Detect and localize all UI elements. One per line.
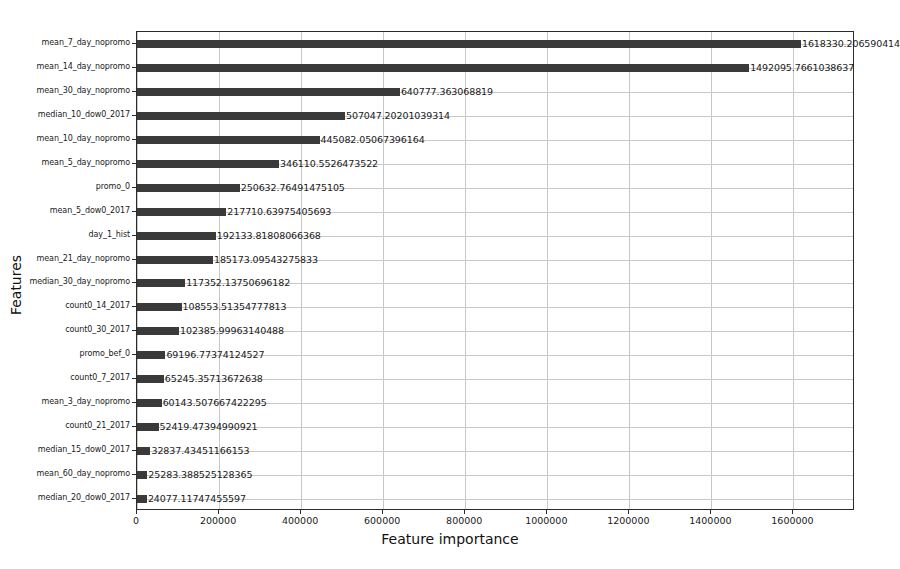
gridline-vertical [793,32,794,509]
bar[interactable] [137,256,213,264]
bar[interactable] [137,495,147,503]
gridline-vertical [301,32,302,509]
y-axis-title: Features [2,0,30,569]
y-axis-tick-label: count0_21_2017 [65,421,130,431]
y-axis-tick-label: mean_7_day_nopromo [42,38,130,48]
x-axis-tick-label: 0 [133,515,139,527]
bar-value-label: 25283.388525128365 [148,467,252,483]
bar[interactable] [137,64,749,72]
x-axis-tick-mark [710,510,711,514]
bar[interactable] [137,184,240,192]
x-axis-tick-label: 200000 [200,515,236,527]
x-axis-tick-mark [218,510,219,514]
bar[interactable] [137,136,320,144]
bar[interactable] [137,423,159,431]
bar[interactable] [137,208,226,216]
y-axis-tick-label: mean_21_day_nopromo [37,254,130,264]
bar-value-label: 117352.13750696182 [186,275,290,291]
gridline-vertical [219,32,220,509]
x-axis-tick-label: 400000 [282,515,318,527]
y-axis-tick-mark [132,306,136,307]
y-axis-tick-label: mean_5_day_nopromo [42,158,130,168]
bar[interactable] [137,88,400,96]
y-axis-tick-label: mean_14_day_nopromo [37,62,130,72]
bar[interactable] [137,279,185,287]
x-axis-tick-mark [546,510,547,514]
bar[interactable] [137,375,164,383]
bar[interactable] [137,232,216,240]
x-axis-tick-label: 1600000 [771,515,813,527]
x-axis-tick-mark [136,510,137,514]
y-axis-tick-mark [132,402,136,403]
feature-importance-figure: 1618330.2065904141492095.766103863764077… [0,0,900,569]
bar-value-label: 60143.507667422295 [163,395,267,411]
bar[interactable] [137,327,179,335]
gridline-vertical [629,32,630,509]
x-axis-tick-mark [628,510,629,514]
bar-value-label: 102385.99963140488 [180,323,284,339]
y-axis-tick-mark [132,450,136,451]
y-axis-tick-mark [132,91,136,92]
y-axis-tick-label: mean_60_day_nopromo [37,469,130,479]
bar-value-label: 507047.20201039314 [346,108,450,124]
x-axis-tick-mark [464,510,465,514]
y-axis-tick-label: promo_bef_0 [79,349,130,359]
x-axis-tick-label: 1200000 [607,515,649,527]
y-axis-tick-label: promo_0 [96,182,130,192]
y-axis-tick-label: count0_14_2017 [65,301,130,311]
bar-value-label: 217710.63975405693 [227,204,331,220]
y-axis-tick-label: median_15_dow0_2017 [38,445,130,455]
y-axis-tick-label: median_30_day_nopromo [29,277,130,287]
x-axis-tick-mark [792,510,793,514]
bar-value-label: 65245.35713672638 [165,371,263,387]
y-axis-tick-mark [132,187,136,188]
y-axis-tick-mark [132,282,136,283]
bar-value-label: 640777.363068819 [401,84,493,100]
bar[interactable] [137,447,150,455]
y-axis-tick-label: count0_7_2017 [70,373,130,383]
bar[interactable] [137,303,182,311]
x-axis-tick-label: 1000000 [525,515,567,527]
y-axis-tick-mark [132,259,136,260]
x-axis-tick-mark [300,510,301,514]
bar-value-label: 192133.81808066368 [217,228,321,244]
y-axis-tick-mark [132,139,136,140]
bar[interactable] [137,40,801,48]
x-axis-tick-label: 1400000 [689,515,731,527]
bar-value-label: 52419.47394990921 [160,419,258,435]
y-axis-tick-label: median_20_dow0_2017 [38,493,130,503]
y-axis-tick-label: day_1_hist [89,230,130,240]
bar-value-label: 1492095.7661038637 [750,60,854,76]
x-axis-tick-label: 800000 [446,515,482,527]
bar[interactable] [137,471,147,479]
gridline-vertical [465,32,466,509]
y-axis-tick-mark [132,115,136,116]
bar[interactable] [137,399,162,407]
y-axis-tick-label: mean_5_dow0_2017 [50,206,130,216]
bar-value-label: 445082.05067396164 [321,132,425,148]
bar-value-label: 346110.5526473522 [280,156,378,172]
y-axis-tick-mark [132,43,136,44]
bar[interactable] [137,112,345,120]
y-axis-tick-mark [132,426,136,427]
bar-value-label: 185173.09543275833 [214,252,318,268]
gridline-vertical [137,32,138,509]
bar-value-label: 24077.11747455597 [148,491,246,507]
y-axis-tick-label: mean_30_day_nopromo [37,86,130,96]
y-axis-tick-mark [132,330,136,331]
y-axis-tick-mark [132,474,136,475]
y-axis-tick-label: median_10_dow0_2017 [38,110,130,120]
bar-value-label: 108553.51354777813 [183,299,287,315]
x-axis-tick-label: 600000 [364,515,400,527]
gridline-vertical [547,32,548,509]
bar-value-label: 32837.43451166153 [151,443,249,459]
y-axis-tick-mark [132,67,136,68]
y-axis-tick-label: mean_3_day_nopromo [42,397,130,407]
plot-area: 1618330.2065904141492095.766103863764077… [136,31,854,510]
bar[interactable] [137,351,165,359]
bar-value-label: 69196.77374124527 [166,347,264,363]
bar[interactable] [137,160,279,168]
gridline-vertical [383,32,384,509]
bar-value-label: 1618330.206590414 [802,36,900,52]
x-axis-title: Feature importance [0,531,900,547]
